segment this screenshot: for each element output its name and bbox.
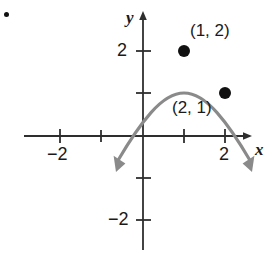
point-label-2-1: (2, 1)	[172, 99, 212, 116]
y-axis-label: y	[126, 9, 134, 26]
coordinate-plane-svg	[0, 0, 280, 254]
x-tick-label--2: −2	[47, 145, 68, 163]
y-tick-label--2: −2	[108, 210, 129, 228]
y-tick-label-2: 2	[117, 41, 127, 59]
x-axis	[24, 132, 252, 140]
y-axis-arrowhead	[139, 11, 147, 20]
y-axis	[139, 11, 147, 250]
x-tick-label-2: 2	[219, 145, 229, 163]
x-axis-arrowhead	[243, 132, 252, 140]
point-marker-1-2	[178, 45, 190, 57]
x-axis-label: x	[255, 141, 264, 158]
point-marker-2-1	[219, 87, 231, 99]
point-label-1-2: (1, 2)	[190, 22, 230, 39]
